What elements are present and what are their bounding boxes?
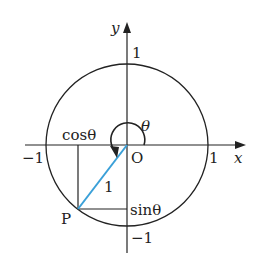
tick-x-pos: 1 <box>209 149 219 167</box>
unit-circle-diagram: y x O 1 −1 1 −1 θ cosθ sinθ 1 P <box>0 0 262 263</box>
tick-x-neg: −1 <box>22 149 44 167</box>
tick-y-neg: −1 <box>131 229 153 247</box>
cos-label: cosθ <box>62 126 96 144</box>
x-axis-label: x <box>234 149 243 167</box>
sin-label: sinθ <box>130 201 161 219</box>
point-P-label: P <box>61 210 71 228</box>
origin-label: O <box>131 149 143 167</box>
y-axis-label: y <box>110 19 120 37</box>
radius-label: 1 <box>104 178 114 196</box>
radius-line-OP <box>78 145 127 209</box>
y-axis-arrow-icon <box>123 22 131 33</box>
theta-label: θ <box>141 117 150 135</box>
tick-y-pos: 1 <box>132 44 142 62</box>
x-axis-arrow-icon <box>235 141 246 149</box>
